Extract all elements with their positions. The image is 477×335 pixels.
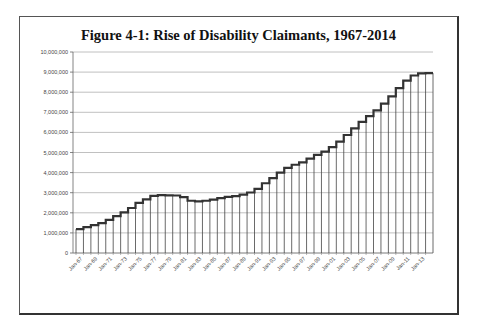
y-tick-label: 3,000,000 [44,190,68,196]
x-tick-label: Jan-71 [97,255,113,271]
y-tick-label: 10,000,000 [40,49,68,55]
x-tick-label: Jan-79 [157,255,173,271]
x-tick-label: Jan-83 [186,255,202,271]
x-tick-label: Jan-69 [82,255,98,271]
x-tick-label: Jan-99 [305,255,321,271]
x-tick-label: Jan-87 [216,255,232,271]
x-tick-label: Jan-67 [67,255,83,271]
x-tick-label: Jan-03 [335,255,351,271]
x-tick-label: Jan-09 [380,255,396,271]
y-tick-label: 9,000,000 [44,69,68,75]
x-tick-label: Jan-89 [231,255,247,271]
x-tick-label: Jan-13 [409,255,425,271]
x-tick-label: Jan-73 [112,255,128,271]
y-tick-label: 1,000,000 [44,230,68,236]
y-tick-label: 5,000,000 [44,150,68,156]
y-tick-label: 0 [65,250,68,256]
x-tick-label: Jan-05 [350,255,366,271]
x-tick-label: Jan-01 [320,255,336,271]
x-tick-label: Jan-07 [365,255,381,271]
x-tick-label: Jan-81 [171,255,187,271]
y-tick-label: 4,000,000 [44,170,68,176]
y-tick-label: 8,000,000 [44,89,68,95]
x-tick-label: Jan-97 [290,255,306,271]
y-tick-label: 6,000,000 [44,129,68,135]
y-tick-label: 7,000,000 [44,109,68,115]
x-tick-label: Jan-93 [261,255,277,271]
x-tick-label: Jan-91 [246,255,262,271]
x-tick-label: Jan-11 [395,255,411,271]
y-tick-label: 2,000,000 [44,210,68,216]
step-chart: 01,000,0002,000,0003,000,0004,000,0005,0… [0,0,477,335]
x-tick-label: Jan-95 [276,255,292,271]
x-tick-label: Jan-77 [142,255,158,271]
x-tick-label: Jan-85 [201,255,217,271]
x-tick-label: Jan-75 [127,255,143,271]
